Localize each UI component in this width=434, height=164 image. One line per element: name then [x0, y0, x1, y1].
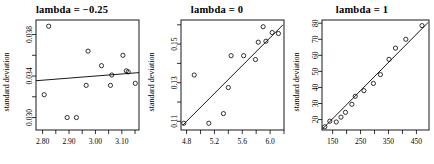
svg-text:0.11: 0.11: [170, 115, 179, 128]
three-panel-scatter-figure: lambda = −0.25 standard deviation 2.802.…: [0, 0, 434, 164]
svg-text:5.6: 5.6: [238, 137, 248, 146]
svg-text:0.038: 0.038: [25, 26, 34, 43]
svg-text:40: 40: [311, 83, 320, 91]
svg-text:70: 70: [311, 35, 320, 43]
svg-text:250: 250: [355, 137, 367, 146]
panel-lambda-neg025: lambda = −0.25 standard deviation 2.802.…: [0, 0, 144, 164]
svg-text:80: 80: [311, 19, 320, 27]
svg-text:0.15: 0.15: [170, 37, 179, 50]
svg-text:0.13: 0.13: [170, 76, 179, 89]
svg-text:450: 450: [411, 137, 423, 146]
panel-lambda-0: lambda = 0 standard deviation 4.85.25.66…: [145, 0, 289, 164]
panel-lambda-1: lambda = 1 standard deviation 1502503504…: [290, 0, 434, 164]
plot-area: 4.85.25.66.00.110.130.15: [145, 0, 289, 164]
svg-text:0.030: 0.030: [25, 109, 34, 126]
svg-text:5.2: 5.2: [210, 137, 220, 146]
plot-area: 15025035045020304050607080: [290, 0, 434, 164]
svg-text:350: 350: [383, 137, 395, 146]
svg-text:2.90: 2.90: [62, 137, 75, 146]
svg-text:6.0: 6.0: [265, 137, 275, 146]
svg-text:4.8: 4.8: [182, 137, 192, 146]
svg-text:2.80: 2.80: [36, 137, 49, 146]
svg-text:3.10: 3.10: [115, 137, 128, 146]
svg-text:50: 50: [311, 67, 320, 75]
svg-text:30: 30: [311, 100, 320, 108]
svg-text:0.034: 0.034: [25, 67, 34, 84]
svg-text:20: 20: [311, 116, 320, 124]
plot-area: 2.802.903.003.100.0300.0340.038: [0, 0, 144, 164]
svg-text:150: 150: [327, 137, 339, 146]
svg-text:3.00: 3.00: [89, 137, 102, 146]
svg-text:60: 60: [311, 51, 320, 59]
